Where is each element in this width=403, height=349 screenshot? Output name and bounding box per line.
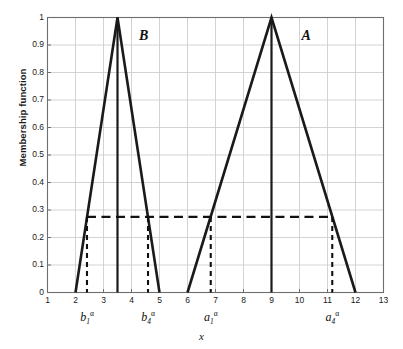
membership-function-chart: Membership function x 00.10.20.30.40.50.… — [0, 0, 403, 349]
plot-canvas — [0, 0, 403, 349]
series-annotation-b: B — [139, 28, 148, 44]
series-annotation-a: A — [302, 28, 311, 44]
